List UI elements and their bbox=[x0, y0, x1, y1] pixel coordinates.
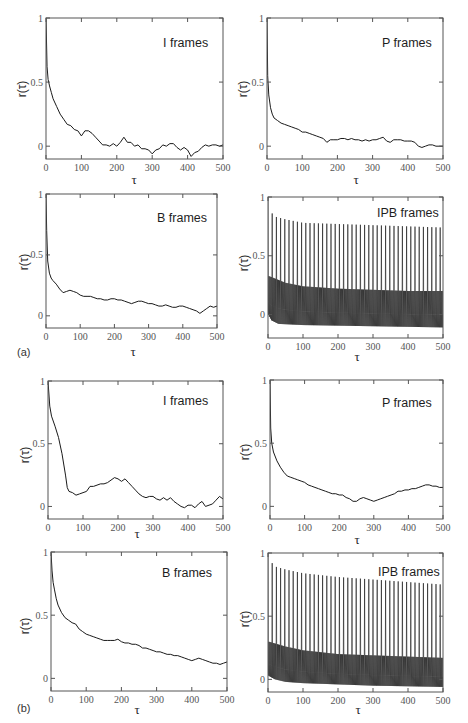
x-tick-label: 100 bbox=[296, 341, 311, 352]
x-tick-label: 400 bbox=[175, 331, 190, 342]
y-axis-label: r(τ) bbox=[15, 81, 29, 98]
x-tick-label: 500 bbox=[220, 694, 235, 705]
x-axis-label: τ bbox=[353, 172, 358, 187]
y-tick-label: 0.5 bbox=[253, 250, 266, 261]
y-axis-label: r(τ) bbox=[236, 81, 250, 98]
x-tick-label: 0 bbox=[268, 522, 273, 533]
x-tick-label: 500 bbox=[436, 695, 451, 706]
x-tick-label: 0 bbox=[44, 331, 49, 342]
x-tick-label: 400 bbox=[181, 522, 196, 533]
x-axis-label: τ bbox=[131, 172, 136, 187]
x-tick-label: 100 bbox=[73, 331, 88, 342]
y-tick-label: 0.5 bbox=[31, 249, 44, 260]
x-tick-label: 400 bbox=[184, 694, 199, 705]
y-tick-label: 0 bbox=[43, 673, 48, 684]
x-tick-label: 400 bbox=[400, 162, 415, 173]
x-tick-label: 200 bbox=[330, 162, 345, 173]
panel-label-b: (b) bbox=[17, 702, 30, 714]
x-axis-label: τ bbox=[355, 702, 360, 717]
x-tick-label: 100 bbox=[79, 694, 94, 705]
y-tick-label: 0.5 bbox=[31, 77, 44, 88]
y-axis-label: r(τ) bbox=[238, 444, 252, 461]
x-tick-label: 300 bbox=[141, 331, 156, 342]
y-tick-label: 0.5 bbox=[36, 610, 49, 621]
x-tick-label: 400 bbox=[401, 695, 416, 706]
x-tick-label: 300 bbox=[145, 162, 160, 173]
x-tick-label: 100 bbox=[295, 162, 310, 173]
y-tick-label: 0 bbox=[40, 501, 45, 512]
x-tick-label: 400 bbox=[401, 522, 416, 533]
x-tick-label: 0 bbox=[44, 162, 49, 173]
x-tick-label: 100 bbox=[297, 522, 312, 533]
y-tick-label: 0.5 bbox=[252, 77, 265, 88]
y-tick-label: 1 bbox=[259, 13, 264, 24]
y-tick-label: 1 bbox=[38, 13, 43, 24]
panel-label-a: (a) bbox=[17, 346, 30, 358]
y-tick-label: 1 bbox=[260, 548, 265, 559]
panel-title: P frames bbox=[382, 36, 432, 50]
x-tick-label: 300 bbox=[365, 162, 380, 173]
x-axis-label: τ bbox=[134, 526, 139, 541]
y-tick-label: 0.5 bbox=[33, 438, 46, 449]
x-tick-label: 0 bbox=[265, 162, 270, 173]
x-tick-label: 300 bbox=[366, 341, 381, 352]
panel-title: I frames bbox=[163, 36, 208, 50]
x-tick-label: 400 bbox=[401, 341, 416, 352]
y-axis-label: r(τ) bbox=[237, 255, 251, 272]
y-tick-label: 1 bbox=[262, 375, 267, 386]
x-tick-label: 200 bbox=[331, 341, 346, 352]
y-tick-label: 0 bbox=[38, 141, 43, 152]
x-tick-label: 0 bbox=[266, 341, 271, 352]
y-tick-label: 0 bbox=[38, 310, 43, 321]
y-tick-label: 0.5 bbox=[253, 611, 266, 622]
y-axis-label: r(τ) bbox=[17, 254, 31, 271]
x-tick-label: 400 bbox=[180, 162, 195, 173]
x-tick-label: 100 bbox=[74, 162, 89, 173]
x-tick-label: 500 bbox=[436, 522, 451, 533]
x-tick-label: 500 bbox=[216, 162, 231, 173]
x-tick-label: 100 bbox=[76, 522, 91, 533]
y-axis-label: r(τ) bbox=[18, 447, 32, 464]
x-tick-label: 200 bbox=[114, 694, 129, 705]
panel-title: P frames bbox=[382, 396, 432, 410]
x-tick-label: 0 bbox=[49, 694, 54, 705]
x-tick-label: 100 bbox=[296, 695, 311, 706]
x-axis-label: τ bbox=[354, 349, 359, 364]
x-axis-label: τ bbox=[130, 344, 135, 359]
x-tick-label: 200 bbox=[331, 695, 346, 706]
x-tick-label: 0 bbox=[46, 522, 51, 533]
y-tick-label: 1 bbox=[260, 192, 265, 203]
x-tick-label: 300 bbox=[149, 694, 164, 705]
y-axis-label: r(τ) bbox=[18, 618, 32, 635]
panel-title: IPB frames bbox=[378, 565, 440, 579]
x-tick-label: 500 bbox=[436, 341, 451, 352]
y-tick-label: 0 bbox=[262, 501, 267, 512]
x-axis-label: τ bbox=[134, 702, 139, 717]
y-tick-label: 0 bbox=[260, 309, 265, 320]
y-axis-label: r(τ) bbox=[238, 611, 252, 628]
panel-title: IPB frames bbox=[377, 206, 439, 220]
x-tick-label: 500 bbox=[436, 162, 451, 173]
x-tick-label: 200 bbox=[111, 522, 126, 533]
x-tick-label: 300 bbox=[366, 695, 381, 706]
y-tick-label: 1 bbox=[43, 547, 48, 558]
x-tick-label: 500 bbox=[216, 522, 231, 533]
x-tick-label: 200 bbox=[332, 522, 347, 533]
x-tick-label: 300 bbox=[146, 522, 161, 533]
figure: 010020030040050000.51 I frames r(τ) τ 01… bbox=[0, 0, 468, 723]
x-tick-label: 0 bbox=[266, 695, 271, 706]
panel-title: I frames bbox=[163, 394, 208, 408]
panel-title: B frames bbox=[157, 211, 207, 225]
y-tick-label: 0 bbox=[259, 141, 264, 152]
x-tick-label: 200 bbox=[109, 162, 124, 173]
panel-title: B frames bbox=[162, 566, 212, 580]
x-axis-label: τ bbox=[354, 532, 359, 547]
y-tick-label: 0 bbox=[260, 674, 265, 685]
y-tick-label: 1 bbox=[38, 189, 43, 200]
x-tick-label: 500 bbox=[210, 331, 225, 342]
x-tick-label: 200 bbox=[107, 331, 122, 342]
y-tick-label: 0.5 bbox=[255, 438, 268, 449]
x-tick-label: 300 bbox=[366, 522, 381, 533]
y-tick-label: 1 bbox=[40, 376, 45, 387]
